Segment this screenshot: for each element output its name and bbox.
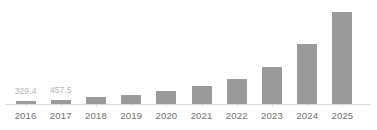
x-axis-label: 2018	[78, 110, 113, 121]
bar[interactable]	[192, 86, 212, 104]
x-axis-label: 2021	[184, 110, 219, 121]
bar[interactable]	[332, 12, 352, 104]
x-axis-label: 2020	[149, 110, 184, 121]
bar-group	[219, 0, 254, 104]
bar-group	[325, 0, 360, 104]
bar-group: 457.5	[43, 0, 78, 104]
x-axis-labels: 2016201720182019202020212022202320242025	[0, 107, 377, 130]
bar-group: 329.4	[8, 0, 43, 104]
x-axis-label: 2019	[114, 110, 149, 121]
bar-group	[290, 0, 325, 104]
bar[interactable]	[297, 44, 317, 104]
bar-value-label: 457.5	[50, 85, 72, 95]
bar-group	[184, 0, 219, 104]
bar[interactable]	[156, 91, 176, 104]
x-axis-label: 2023	[254, 110, 289, 121]
bar-group	[114, 0, 149, 104]
plot-area: 329.4457.5	[0, 0, 377, 104]
bar-value-label: 329.4	[15, 86, 37, 96]
bar-chart: 329.4457.5 20162017201820192020202120222…	[0, 0, 377, 130]
bar-group	[78, 0, 113, 104]
x-axis-label: 2025	[325, 110, 360, 121]
bars-layer: 329.4457.5	[0, 0, 377, 104]
x-axis-label: 2024	[290, 110, 325, 121]
x-axis-label: 2022	[219, 110, 254, 121]
x-axis-label: 2017	[43, 110, 78, 121]
bar[interactable]	[262, 67, 282, 104]
bar[interactable]	[227, 79, 247, 104]
bar-group	[254, 0, 289, 104]
x-axis-label: 2016	[8, 110, 43, 121]
bar-group	[149, 0, 184, 104]
